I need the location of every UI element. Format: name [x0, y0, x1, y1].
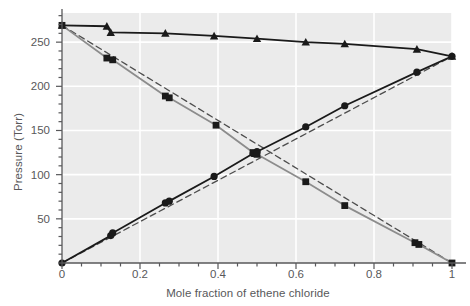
marker-square	[302, 178, 309, 185]
y-tick-label: 100	[18, 169, 50, 181]
x-tick-label: 0.6	[288, 268, 304, 280]
y-tick-label: 50	[18, 213, 50, 225]
marker-circle	[302, 123, 309, 130]
marker-square	[415, 241, 422, 248]
vapour-pressure-chart: Mole fraction of ethene chloride Pressur…	[0, 0, 470, 306]
marker-circle	[166, 198, 173, 205]
marker-square	[341, 202, 348, 209]
marker-square	[103, 55, 110, 62]
x-axis-title: Mole fraction of ethene chloride	[0, 287, 470, 299]
plot-panel	[62, 13, 452, 263]
y-tick-label: 200	[18, 80, 50, 92]
marker-circle	[413, 69, 420, 76]
marker-square	[213, 122, 220, 129]
x-tick-label: 1	[449, 268, 455, 280]
marker-circle	[341, 102, 348, 109]
chart-canvas	[0, 0, 470, 306]
panel-background	[62, 13, 452, 263]
y-axis-title: Pressure (Torr)	[12, 82, 24, 222]
marker-circle	[448, 53, 455, 60]
x-tick-label: 0.4	[210, 268, 226, 280]
marker-circle	[211, 173, 218, 180]
x-tick-label: 0.8	[366, 268, 382, 280]
marker-square	[166, 94, 173, 101]
y-tick-label: 250	[18, 36, 50, 48]
marker-circle	[109, 229, 116, 236]
marker-square	[109, 56, 116, 63]
x-tick-label: 0.2	[132, 268, 148, 280]
y-tick-label: 150	[18, 124, 50, 136]
marker-square	[254, 151, 261, 158]
x-tick-label: 0	[59, 268, 65, 280]
